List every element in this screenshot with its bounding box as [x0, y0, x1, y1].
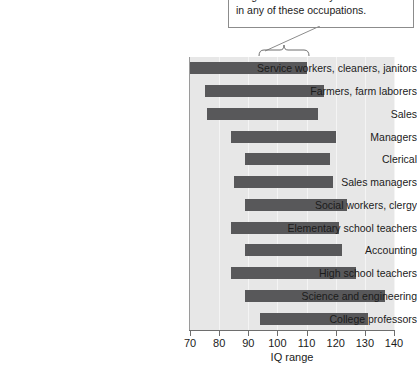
y-axis-label-2: Sales — [234, 108, 417, 120]
y-axis-label-9: High school teachers — [234, 267, 417, 279]
x-tick — [365, 331, 366, 336]
x-tick — [219, 331, 220, 336]
callout-box: range of 95–110 may be found in any of t… — [228, 0, 414, 28]
x-tick — [190, 331, 191, 336]
y-axis-label-7: Elementary school teachers — [234, 222, 417, 234]
x-tick — [248, 331, 249, 336]
x-tick-label-140: 140 — [374, 337, 414, 350]
x-tick — [336, 331, 337, 336]
y-axis-label-8: Accounting — [234, 244, 417, 256]
y-axis-label-5: Sales managers — [234, 176, 417, 188]
y-axis-label-1: Farmers, farm laborers — [234, 85, 417, 97]
y-axis-label-3: Managers — [234, 131, 417, 143]
iq-range-figure: range of 95–110 may be found in any of t… — [0, 0, 417, 385]
curly-brace-icon — [258, 44, 310, 57]
y-axis-label-10: Science and engineering — [234, 290, 417, 302]
gridline — [219, 57, 220, 330]
x-axis-title: IQ range — [190, 351, 394, 363]
callout-line-2: in any of these occupations. — [236, 4, 407, 18]
x-tick — [394, 331, 395, 336]
y-axis-spine — [189, 57, 190, 331]
y-axis-label-6: Social workers, clergy — [234, 199, 417, 211]
y-axis-label-0: Service workers, cleaners, janitors — [234, 62, 417, 74]
x-tick — [307, 331, 308, 336]
y-axis-label-11: College professors — [234, 313, 417, 325]
x-tick — [277, 331, 278, 336]
leader-line-icon — [255, 26, 321, 52]
y-axis-label-4: Clerical — [234, 153, 417, 165]
